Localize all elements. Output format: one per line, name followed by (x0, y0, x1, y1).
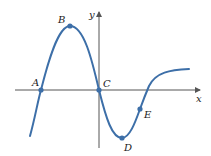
point-B: B (57, 14, 73, 29)
point-D: D (119, 135, 132, 153)
function-graph: x y A B C D E (0, 0, 211, 156)
x-axis-label: x (196, 93, 202, 104)
y-axis-label: y (88, 9, 95, 20)
point-E: E (137, 106, 152, 120)
point-B-label: B (57, 14, 65, 25)
point-A-label: A (31, 77, 39, 88)
point-D-label: D (123, 142, 132, 153)
point-E-label: E (143, 109, 152, 120)
point-C-label: C (103, 78, 111, 89)
